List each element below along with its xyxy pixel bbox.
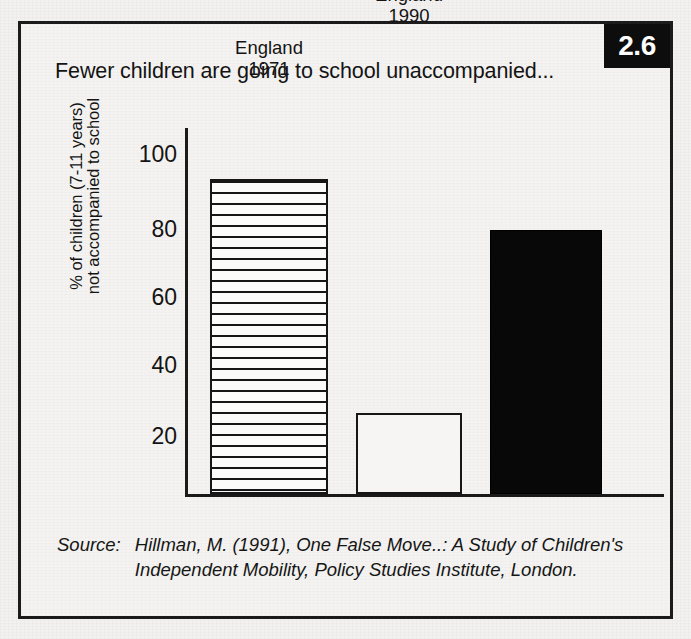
y-tick-label: 80: [107, 216, 177, 243]
bar-label-line-2: 1990: [388, 5, 429, 26]
scanned-page-background: 2.6 Fewer children are going to school u…: [0, 0, 691, 639]
y-tick-label: 20: [107, 423, 177, 450]
x-axis-line: [185, 494, 664, 497]
bar-label-england-1990: England 1990: [319, 0, 499, 26]
bar-england-1971[interactable]: [210, 179, 328, 494]
bar-label-england-1971: England 1971: [179, 38, 359, 79]
bar-group-england-1971: England 1971: [210, 128, 328, 494]
bar-england-1990[interactable]: [356, 413, 462, 494]
source-label: Source:: [57, 532, 135, 582]
page-number-badge: 2.6: [604, 24, 670, 68]
y-tick-label: 100: [107, 141, 177, 168]
source-note: Source: Hillman, M. (1991), One False Mo…: [57, 532, 642, 582]
bars-layer: England 1971 England 1990 Germany 19: [188, 128, 664, 494]
bar-group-england-1990: England 1990: [356, 128, 462, 494]
bar-label-line-1: England: [235, 37, 303, 58]
y-axis-title-line-1: % of children (7-11 years): [68, 102, 85, 290]
source-text: Hillman, M. (1991), One False Move..: A …: [135, 532, 642, 582]
y-axis-title: % of children (7-11 years) not accompani…: [63, 36, 107, 356]
y-tick-label: 40: [107, 352, 177, 379]
bar-germany-1990[interactable]: [490, 230, 602, 494]
figure-frame: 2.6 Fewer children are going to school u…: [18, 21, 673, 619]
y-tick-label: 60: [107, 284, 177, 311]
bar-group-germany-1990: Germany 1990: [490, 128, 602, 494]
chart-plot-area: 100 80 60 40 20 % of children (7-11 year…: [21, 24, 670, 616]
y-axis-title-line-2: not accompanied to school: [85, 98, 102, 294]
bar-label-line-2: 1971: [248, 58, 289, 79]
